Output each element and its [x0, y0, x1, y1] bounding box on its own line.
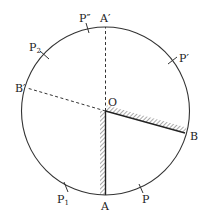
label-B-prime: B′	[15, 82, 26, 95]
label-P2: P2	[29, 41, 41, 55]
label-A-prime: A′	[99, 12, 111, 25]
label-P1: P1	[57, 193, 69, 207]
tick-P1	[64, 182, 68, 192]
label-O: O	[108, 96, 117, 109]
tick-P	[139, 184, 143, 193]
mirror-OB	[106, 106, 187, 134]
label-P-double-prime: P″	[79, 12, 91, 25]
tick-P2	[40, 51, 49, 59]
label-P-prime: P′	[179, 52, 189, 65]
mirror-OA	[100, 111, 106, 195]
dashed-line-OB-prime	[27, 88, 106, 111]
tick-P-prime	[168, 57, 177, 64]
label-A: A	[100, 200, 110, 213]
label-B: B	[190, 130, 198, 143]
label-P: P	[142, 193, 150, 206]
circle-mirror-diagram: A′ P″ P2 P′ B′ O B P1 A P	[0, 0, 207, 216]
